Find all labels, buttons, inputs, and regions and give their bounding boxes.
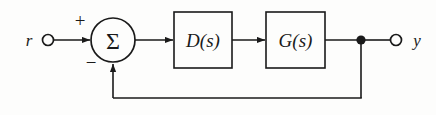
input-terminal-circle (43, 35, 54, 46)
negative-sign-label: − (86, 52, 97, 73)
positive-sign-label: + (75, 10, 86, 31)
summing-junction-sigma-glyph: Σ (106, 28, 120, 54)
controller-block-label: D(s) (185, 30, 220, 52)
input-signal-label: r (26, 31, 33, 50)
block-diagram-canvas: r + − Σ D(s) G(s) y (0, 0, 436, 115)
block-diagram-figure: r + − Σ D(s) G(s) y (0, 0, 436, 115)
output-terminal-circle (391, 35, 402, 46)
plant-block-label: G(s) (279, 30, 313, 52)
output-signal-label: y (411, 31, 421, 50)
